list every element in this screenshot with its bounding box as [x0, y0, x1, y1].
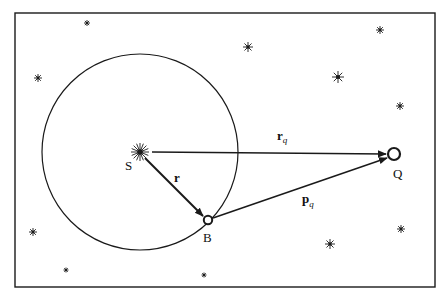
star-icon: [34, 74, 42, 82]
label-p-q-sub: q: [309, 199, 314, 209]
frame-border: [15, 13, 435, 287]
vector-r-q: [152, 152, 386, 154]
star-icon: [84, 20, 90, 26]
vector-p-q: [213, 158, 387, 218]
star-icon: [202, 273, 207, 278]
star-icon: [243, 42, 253, 52]
background-stars: [29, 20, 405, 278]
star-icon: [64, 268, 69, 273]
star-icon: [396, 102, 404, 110]
vector-r: [145, 158, 203, 216]
star-icon: [325, 239, 335, 249]
label-r: r: [174, 170, 180, 185]
label-b: B: [203, 230, 212, 245]
point-b-icon: [204, 216, 212, 224]
deflection-diagram: S B Q r rq pq: [0, 0, 447, 299]
star-icon: [376, 26, 384, 34]
label-s: S: [125, 158, 132, 173]
point-q-icon: [388, 148, 400, 160]
label-p-q: pq: [302, 191, 314, 209]
star-icon: [332, 71, 344, 83]
label-r-q-sub: q: [283, 135, 288, 145]
star-icon: [397, 225, 405, 233]
label-q: Q: [393, 166, 403, 181]
sun-burst-icon: [131, 143, 149, 161]
star-icon: [29, 228, 37, 236]
label-r-q: rq: [277, 128, 288, 145]
label-p-q-main: p: [302, 191, 309, 206]
